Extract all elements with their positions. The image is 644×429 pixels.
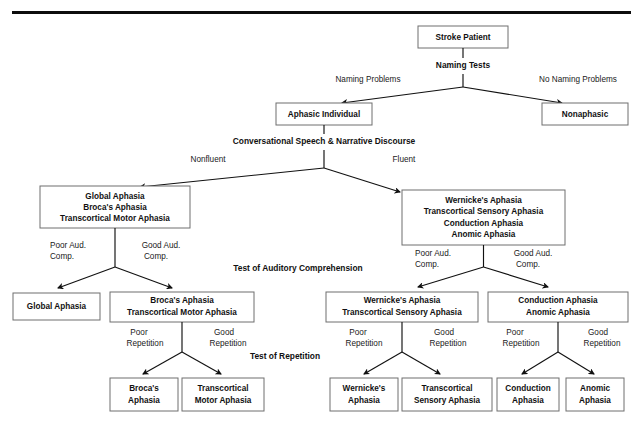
edge-label-poor-rep-3-l1: Poor (506, 328, 524, 337)
node-wernicke-tcs-group-line-1: Transcortical Sensory Aphasia (342, 308, 462, 317)
edge-label-poor-aud-comp-right-l2: Comp. (415, 260, 439, 269)
node-broca-tcm-group: Broca's Aphasia Transcortical Motor Apha… (110, 292, 254, 322)
edge-wernicke-to-tcs (402, 352, 440, 374)
node-global-aphasia: Global Aphasia (13, 293, 100, 320)
node-brocas-aphasia-line-0: Broca's (129, 384, 159, 393)
edge-label-nonfluent: Nonfluent (190, 155, 226, 164)
node-fluent-group-line-1: Transcortical Sensory Aphasia (424, 207, 544, 216)
edge-label-good-aud-comp-right-l2: Comp. (516, 260, 540, 269)
node-wernicke-tcs-group-line-0: Wernicke's Aphasia (364, 296, 441, 305)
edge-label-poor-rep-2-l2: Repetition (346, 339, 383, 348)
edge-label-poor-rep-3-l2: Repetition (503, 339, 540, 348)
stage-label-repetition: Test of Repetition (250, 351, 320, 361)
edge-label-poor-aud-comp-left-l2: Comp. (50, 252, 74, 261)
node-transcortical-sensory-aphasia-line-1: Sensory Aphasia (414, 396, 481, 405)
node-nonfluent-group-line-0: Global Aphasia (85, 192, 145, 201)
edge-label-good-rep-1-l2: Repetition (210, 339, 247, 348)
node-conduction-anomic-group-line-0: Conduction Aphasia (518, 296, 598, 305)
node-global-aphasia-line-0: Global Aphasia (27, 302, 87, 311)
node-brocas-aphasia: Broca's Aphasia (110, 378, 178, 411)
edge-label-poor-aud-comp-left-l1: Poor Aud. (50, 241, 86, 250)
node-wernickes-aphasia-line-1: Aphasia (348, 396, 380, 405)
node-broca-tcm-group-line-1: Transcortical Motor Aphasia (127, 308, 237, 317)
edge-fluent-to-wernicke-tcs (418, 267, 484, 287)
edge-aphasic-to-fluent (324, 168, 400, 192)
node-brocas-aphasia-line-1: Aphasia (128, 396, 160, 405)
stage-label-conversational: Conversational Speech & Narrative Discou… (233, 136, 416, 146)
node-wernickes-aphasia-line-0: Wernicke's (343, 384, 386, 393)
node-conduction-anomic-group: Conduction Aphasia Anomic Aphasia (488, 292, 628, 322)
node-stroke-patient-line-0: Stroke Patient (435, 33, 490, 42)
edge-broca-to-brocas (143, 352, 182, 374)
edge-label-no-naming-problems: No Naming Problems (539, 75, 617, 84)
edge-nonfluent-to-broca-tcm (115, 267, 172, 288)
flowchart-canvas: Stroke Patient Naming Tests Naming Probl… (0, 0, 644, 429)
edge-conduction-to-anomic (558, 352, 594, 374)
node-nonaphasic-line-0: Nonaphasic (562, 110, 609, 119)
edge-label-good-aud-comp-left-l1: Good Aud. (142, 241, 181, 250)
node-wernicke-tcs-group: Wernicke's Aphasia Transcortical Sensory… (326, 292, 478, 322)
node-fluent-group-line-3: Anomic Aphasia (452, 230, 516, 239)
edge-fluent-to-conduction-anomic (484, 267, 549, 287)
node-transcortical-motor-aphasia-line-0: Transcortical (198, 384, 249, 393)
edge-label-good-aud-comp-left-l2: Comp. (144, 252, 168, 261)
edge-nonfluent-to-global (58, 267, 115, 288)
node-nonaphasic: Nonaphasic (542, 103, 628, 125)
node-conduction-aphasia: Conduction Aphasia (497, 378, 559, 411)
edge-label-good-rep-2-l2: Repetition (430, 339, 467, 348)
node-broca-tcm-group-line-0: Broca's Aphasia (150, 296, 214, 305)
node-anomic-aphasia: Anomic Aphasia (566, 378, 624, 411)
edge-stroke-to-nonaphasic (463, 87, 562, 103)
edge-label-good-rep-2-l1: Good (434, 328, 454, 337)
node-conduction-aphasia-line-0: Conduction (505, 384, 550, 393)
edge-stroke-to-aphasic (342, 87, 463, 103)
edge-label-good-aud-comp-right-l1: Good Aud. (514, 249, 553, 258)
node-nonfluent-group: Global Aphasia Broca's Aphasia Transcort… (40, 186, 190, 228)
node-nonfluent-group-line-2: Transcortical Motor Aphasia (60, 214, 170, 223)
node-aphasic-individual-line-0: Aphasic Individual (288, 110, 360, 119)
edge-label-poor-rep-2-l1: Poor (349, 328, 367, 337)
edge-label-poor-rep-1-l2: Repetition (127, 339, 164, 348)
edge-label-good-rep-1-l1: Good (214, 328, 234, 337)
node-anomic-aphasia-line-0: Anomic (580, 384, 610, 393)
stage-label-naming-tests: Naming Tests (436, 60, 491, 70)
node-conduction-aphasia-line-1: Aphasia (512, 396, 544, 405)
node-transcortical-sensory-aphasia-line-0: Transcortical (422, 384, 473, 393)
stage-label-auditory-comprehension: Test of Auditory Comprehension (233, 263, 362, 273)
aphasia-flowchart: Stroke Patient Naming Tests Naming Probl… (0, 0, 644, 429)
top-divider-rule (12, 11, 631, 14)
node-stroke-patient: Stroke Patient (418, 26, 508, 48)
edge-label-good-rep-3-l1: Good (588, 328, 608, 337)
node-transcortical-motor-aphasia-line-1: Motor Aphasia (195, 396, 252, 405)
edge-wernicke-to-wernickes (364, 352, 402, 374)
edge-label-naming-problems: Naming Problems (335, 75, 400, 84)
node-aphasic-individual: Aphasic Individual (276, 103, 372, 125)
node-fluent-group-line-0: Wernicke's Aphasia (445, 196, 522, 205)
node-fluent-group-line-2: Conduction Aphasia (444, 219, 524, 228)
node-conduction-anomic-group-line-1: Anomic Aphasia (526, 308, 590, 317)
edge-broca-to-tcm (182, 352, 221, 374)
node-transcortical-sensory-aphasia: Transcortical Sensory Aphasia (402, 378, 492, 411)
edge-label-poor-rep-1-l1: Poor (130, 328, 148, 337)
node-anomic-aphasia-line-1: Aphasia (579, 396, 611, 405)
node-transcortical-motor-aphasia: Transcortical Motor Aphasia (182, 378, 264, 411)
edge-label-poor-aud-comp-right-l1: Poor Aud. (415, 249, 451, 258)
edge-label-good-rep-3-l2: Repetition (584, 339, 621, 348)
edge-aphasic-to-nonfluent (140, 168, 324, 187)
node-nonfluent-group-line-1: Broca's Aphasia (83, 203, 147, 212)
node-wernickes-aphasia: Wernicke's Aphasia (330, 378, 398, 411)
edge-conduction-to-conduction (522, 352, 558, 374)
edge-label-fluent: Fluent (393, 155, 416, 164)
node-fluent-group: Wernicke's Aphasia Transcortical Sensory… (402, 190, 565, 245)
